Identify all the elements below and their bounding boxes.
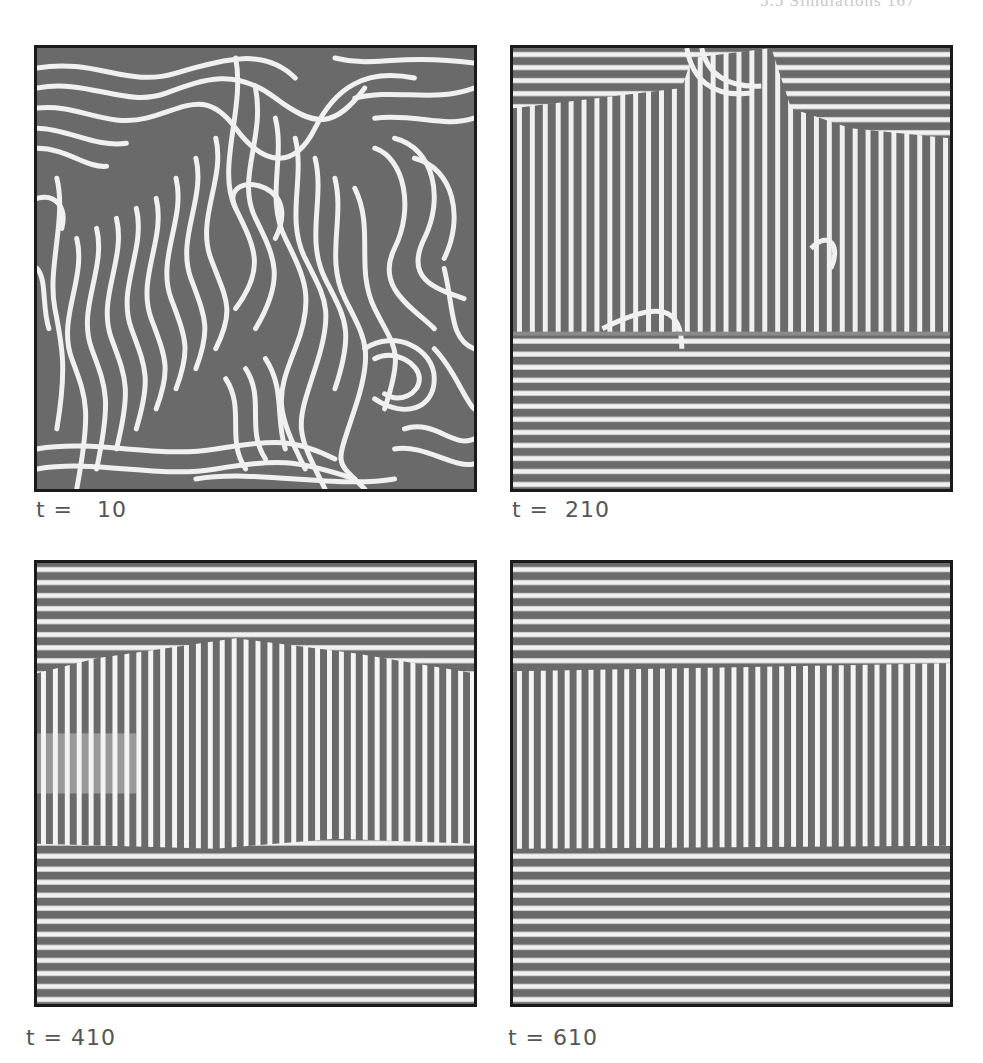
panel-label-t10: t = 10 xyxy=(36,497,127,522)
simulation-panel-t410 xyxy=(34,560,477,1007)
simulation-panel-t10 xyxy=(34,45,477,492)
panel-label-t210: t = 210 xyxy=(512,497,610,522)
labyrinth-pattern-image xyxy=(37,48,474,489)
straight-vertical-band-pattern-image xyxy=(513,563,950,1004)
panel-label-t610: t = 610 xyxy=(508,1025,598,1050)
simulation-panel-t610 xyxy=(510,560,953,1007)
simulation-panel-t210 xyxy=(510,45,953,492)
vertical-band-pattern-image xyxy=(37,563,474,1004)
running-header: 5.5 Simulations 167 xyxy=(760,0,915,11)
mixed-domain-pattern-image xyxy=(513,48,950,489)
panel-label-t410: t = 410 xyxy=(26,1025,116,1050)
